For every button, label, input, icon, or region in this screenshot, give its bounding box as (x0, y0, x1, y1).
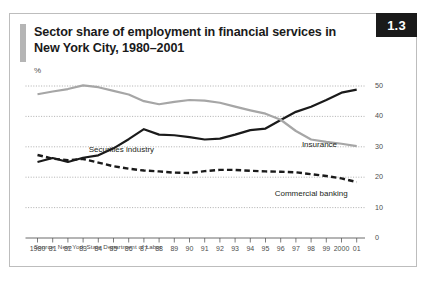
x-tick-label-95: 95 (262, 245, 270, 252)
series-label-securities-industry: Securities industry (89, 145, 154, 154)
figure-card: 1.3 Sector share of employment in financ… (9, 13, 417, 267)
x-tick-label-98: 98 (307, 245, 315, 252)
series-label-commercial-banking: Commercial banking (275, 189, 348, 198)
y-tick-label-40: 40 (375, 111, 393, 120)
x-tick-label-2000: 2000 (334, 245, 350, 252)
chart-svg (10, 14, 418, 268)
y-tick-label-0: 0 (375, 233, 393, 242)
plot-area: 0102030405019808182838485868788899091929… (10, 14, 418, 268)
x-tick-label-99: 99 (322, 245, 330, 252)
y-tick-label-20: 20 (375, 172, 393, 181)
x-tick-label-89: 89 (170, 245, 178, 252)
x-tick-label-90: 90 (186, 245, 194, 252)
source-note: Source: New York State Department of Lab… (34, 243, 162, 250)
x-tick-label-94: 94 (246, 245, 254, 252)
x-tick-label-01: 01 (353, 245, 361, 252)
x-tick-label-96: 96 (277, 245, 285, 252)
series-line-commercial-banking (38, 155, 357, 182)
series-label-insurance: Insurance (302, 140, 337, 149)
x-tick-label-91: 91 (201, 245, 209, 252)
y-tick-label-50: 50 (375, 81, 393, 90)
y-tick-label-30: 30 (375, 142, 393, 151)
y-tick-label-10: 10 (375, 203, 393, 212)
x-tick-label-92: 92 (216, 245, 224, 252)
series-line-insurance (38, 85, 357, 146)
x-tick-label-97: 97 (292, 245, 300, 252)
x-tick-label-93: 93 (231, 245, 239, 252)
